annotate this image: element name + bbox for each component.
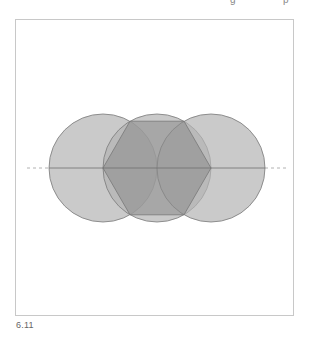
hexagon-circles-diagram xyxy=(0,0,312,340)
figure-caption: 6.11 xyxy=(16,320,34,330)
